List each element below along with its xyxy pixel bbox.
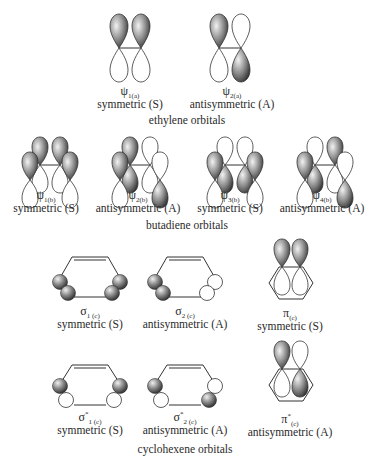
butadiene-psi2-symmetry: antisymmetric (A) [96, 202, 181, 214]
cyclohexene-sigma2-orbital-diagram [145, 252, 225, 302]
ethylene-psi1-symmetry: symmetric (S) [97, 98, 162, 110]
cyclohexene-sigma1-orbital-diagram [50, 252, 130, 302]
cyclohexene-sigma1-symmetry: symmetric (S) [57, 318, 122, 330]
cyclohexene-sigma2-star-orbital-diagram [145, 360, 225, 410]
butadiene-psi4-orbital-diagram [290, 130, 355, 230]
butadiene-psi1-symmetry: symmetric (S) [13, 202, 78, 214]
butadiene-psi4-symmetry: antisymmetric (A) [280, 202, 365, 214]
cyclohexene-section-title: cyclohexene orbitals [138, 443, 233, 455]
cyclohexene-sigma1-star-symmetry: symmetric (S) [57, 424, 122, 436]
ethylene-psi2-orbital-diagram [205, 8, 255, 88]
cyclohexene-pi-orbital-diagram [262, 243, 322, 313]
cyclohexene-sigma1-star-orbital-diagram [50, 360, 130, 410]
cyclohexene-pi-symmetry: symmetric (S) [257, 320, 322, 332]
ethylene-psi2-symmetry: antisymmetric (A) [190, 98, 275, 110]
butadiene-psi3-orbital-diagram [200, 130, 265, 230]
cyclohexene-pi-star-symmetry: antisymmetric (A) [248, 426, 333, 438]
butadiene-psi3-symmetry: symmetric (S) [197, 202, 262, 214]
cyclohexene-pi-star-orbital-diagram [262, 345, 322, 415]
cyclohexene-sigma2-symmetry: antisymmetric (A) [143, 318, 228, 330]
ethylene-section-title: ethylene orbitals [149, 114, 225, 126]
ethylene-psi1-orbital-diagram [105, 8, 155, 88]
butadiene-psi1-orbital-diagram [15, 130, 75, 230]
butadiene-section-title: butadiene orbitals [146, 219, 228, 231]
butadiene-psi2-orbital-diagram [105, 130, 170, 230]
cyclohexene-sigma2-star-symmetry: antisymmetric (A) [143, 424, 228, 436]
